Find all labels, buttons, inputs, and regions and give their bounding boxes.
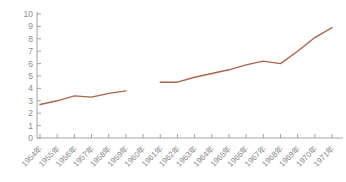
y-tick-label: 8 (28, 34, 33, 44)
y-tick-label: 6 (28, 59, 33, 69)
y-tick-label: 5 (28, 71, 33, 81)
line-chart: 0123456789101954年1955年1956年1957年1958年195… (0, 0, 346, 182)
y-tick-label: 4 (28, 83, 33, 93)
y-tick-label: 3 (28, 96, 33, 106)
y-tick-label: 9 (28, 21, 33, 31)
y-tick-label: 0 (28, 133, 33, 143)
y-tick-label: 10 (24, 9, 34, 19)
data-line-segment (40, 91, 126, 105)
data-line-segment (160, 28, 332, 83)
y-tick-label: 7 (28, 46, 33, 56)
chart-canvas: 0123456789101954年1955年1956年1957年1958年195… (0, 0, 346, 182)
y-tick-label: 1 (28, 121, 33, 131)
y-tick-label: 2 (28, 108, 33, 118)
